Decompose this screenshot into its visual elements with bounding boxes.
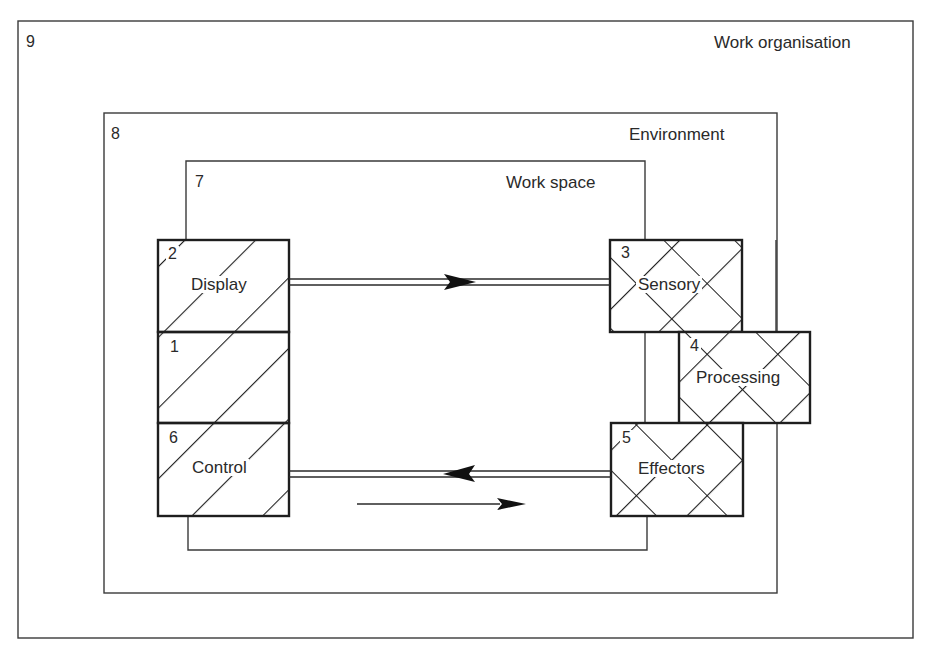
arrowhead-left-icon: [443, 465, 475, 482]
control-label: Control: [190, 459, 249, 476]
display-to-sensory-arrow: [289, 274, 610, 290]
diagram-canvas: [0, 0, 933, 652]
work-space-label: Work space: [506, 174, 595, 191]
control-number: 6: [167, 430, 180, 446]
arrowhead-right-icon: [444, 274, 476, 290]
display-label: Display: [189, 276, 249, 293]
effectors-to-control-arrow: [289, 465, 611, 482]
sensory-number: 3: [619, 245, 632, 261]
environment-label: Environment: [629, 126, 724, 143]
environment-number: 8: [111, 126, 120, 142]
processing-number: 4: [688, 338, 701, 354]
control-to-effectors-arrow: [357, 498, 526, 510]
human-machine-number: 1: [168, 339, 181, 355]
arrowhead-right-icon: [497, 498, 526, 510]
effectors-label: Effectors: [636, 460, 707, 477]
work-organisation-label: Work organisation: [714, 34, 851, 51]
effectors-number: 5: [620, 430, 633, 446]
work-organisation-number: 9: [26, 34, 35, 50]
work-space-number: 7: [195, 174, 204, 190]
sensory-label: Sensory: [636, 276, 702, 293]
display-number: 2: [166, 246, 179, 262]
processing-label: Processing: [694, 369, 782, 386]
